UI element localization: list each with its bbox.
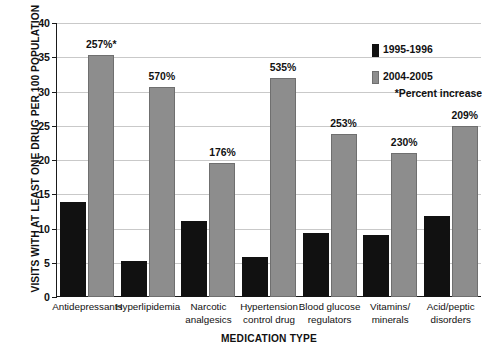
y-tick-mark — [52, 126, 57, 127]
y-tick-label: 5 — [44, 257, 50, 269]
bar-2004-2005 — [270, 78, 296, 297]
gridline — [57, 126, 481, 127]
legend-swatch-icon-2004-2005 — [372, 71, 379, 84]
bar-1995-1996 — [121, 261, 147, 297]
y-tick-label: 15 — [38, 188, 50, 200]
x-category-label: Vitamins/minerals — [370, 301, 410, 326]
y-tick-label: 35 — [38, 51, 50, 63]
x-category-label-line: Antidepressants — [52, 301, 122, 314]
y-tick-label: 40 — [38, 17, 50, 29]
y-tick-mark — [52, 229, 57, 230]
y-tick-label: 20 — [38, 154, 50, 166]
x-category-label-line: Hyperlipidemia — [115, 301, 180, 314]
gridline — [57, 194, 481, 195]
bar-1995-1996 — [242, 257, 268, 297]
gridline — [57, 160, 481, 161]
bar-1995-1996 — [424, 216, 450, 297]
x-axis-line — [56, 296, 481, 297]
legend-footnote: *Percent increase — [372, 88, 482, 99]
bar-chart: VISITS WITH AT LEAST ONE DRUG PER 100 PO… — [0, 0, 482, 352]
y-tick-label: 30 — [38, 86, 50, 98]
chart-legend: 1995-1996 2004-2005 *Percent increase — [372, 44, 482, 99]
gridline — [57, 229, 481, 230]
y-tick-mark — [52, 23, 57, 24]
bar-1995-1996 — [181, 221, 207, 297]
bar-2004-2005 — [209, 163, 235, 297]
x-category-label: Narcoticanalgesics — [185, 301, 231, 326]
x-category-label: Hyperlipidemia — [115, 301, 180, 314]
bar-value-label: 230% — [391, 137, 418, 148]
y-tick-mark — [52, 92, 57, 93]
bar-2004-2005 — [331, 134, 357, 297]
bar-value-label: 535% — [270, 62, 297, 73]
x-category-label-line: control drug — [240, 314, 298, 327]
bar-value-label: 257%* — [86, 39, 117, 50]
x-category-label-line: regulators — [299, 314, 361, 327]
x-category-label-line: Narcotic — [185, 301, 231, 314]
x-category-label: Blood glucoseregulators — [299, 301, 361, 326]
x-category-label-line: minerals — [370, 314, 410, 327]
legend-item-2004-2005: 2004-2005 — [372, 71, 482, 84]
x-category-label-line: Acid/peptic — [427, 301, 475, 314]
x-axis-title: MEDICATION TYPE — [57, 333, 481, 344]
y-tick-mark — [52, 160, 57, 161]
legend-item-1995-1996: 1995-1996 — [372, 44, 482, 57]
x-category-label: Antidepressants — [52, 301, 122, 314]
y-tick-label: 25 — [38, 120, 50, 132]
bar-value-label: 570% — [149, 71, 176, 82]
x-category-label: Acid/pepticdisorders — [427, 301, 475, 326]
y-tick-mark — [52, 57, 57, 58]
legend-label-1995-1996: 1995-1996 — [383, 44, 433, 56]
y-tick-mark — [52, 194, 57, 195]
legend-label-2004-2005: 2004-2005 — [383, 71, 433, 83]
y-tick-mark — [52, 263, 57, 264]
x-category-label: Hypertensioncontrol drug — [240, 301, 298, 326]
gridline — [57, 23, 481, 24]
bar-value-label: 176% — [209, 147, 236, 158]
bar-2004-2005 — [88, 55, 114, 297]
y-tick-mark — [52, 297, 57, 298]
x-category-label-line: Hypertension — [240, 301, 298, 314]
x-category-label-line: Blood glucose — [299, 301, 361, 314]
bar-1995-1996 — [303, 233, 329, 297]
x-category-label-line: disorders — [427, 314, 475, 327]
x-category-label-line: analgesics — [185, 314, 231, 327]
bar-value-label: 209% — [451, 110, 478, 121]
y-tick-label: 0 — [44, 291, 50, 303]
legend-swatch-icon-1995-1996 — [372, 44, 379, 57]
x-category-label-line: Vitamins/ — [370, 301, 410, 314]
bar-value-label: 253% — [330, 118, 357, 129]
bar-2004-2005 — [452, 126, 478, 297]
bar-1995-1996 — [60, 202, 86, 297]
bar-2004-2005 — [391, 153, 417, 297]
y-tick-label: 10 — [38, 223, 50, 235]
bar-1995-1996 — [363, 235, 389, 297]
bar-2004-2005 — [149, 87, 175, 297]
